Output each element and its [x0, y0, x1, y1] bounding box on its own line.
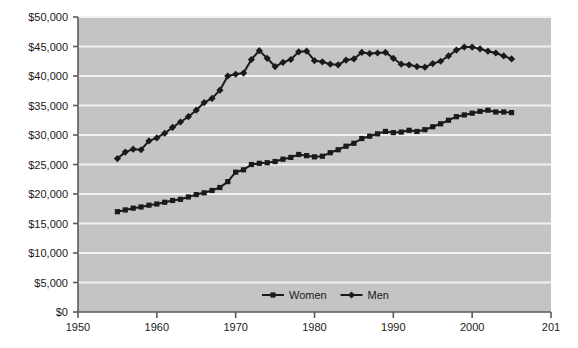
series-marker	[209, 188, 214, 193]
series-marker	[446, 118, 451, 123]
series-marker	[399, 129, 404, 134]
series-marker	[351, 141, 356, 146]
x-axis-tick-label: 201	[542, 321, 560, 333]
series-marker	[288, 155, 293, 160]
y-axis: $0$5,000$10,000$15,000$20,000$25,000$30,…	[28, 11, 78, 318]
legend-marker-square	[270, 292, 275, 297]
series-marker	[217, 185, 222, 190]
series-marker	[493, 109, 498, 114]
chart-canvas: $0$5,000$10,000$15,000$20,000$25,000$30,…	[0, 0, 578, 348]
series-marker	[138, 204, 143, 209]
series-marker	[249, 162, 254, 167]
series-marker	[178, 197, 183, 202]
series-marker	[233, 170, 238, 175]
series-marker	[383, 129, 388, 134]
x-axis-tick-label: 1980	[302, 321, 326, 333]
x-axis-tick-label: 1990	[381, 321, 405, 333]
y-axis-tick-label: $40,000	[28, 70, 68, 82]
series-marker	[343, 144, 348, 149]
y-axis-tick-label: $0	[56, 306, 68, 318]
x-axis-tick-label: 1950	[66, 321, 90, 333]
series-marker	[328, 150, 333, 155]
series-marker	[422, 127, 427, 132]
series-marker	[131, 206, 136, 211]
series-marker	[438, 121, 443, 126]
x-axis: 195019601970198019902000201	[66, 312, 560, 333]
series-marker	[407, 128, 412, 133]
legend-label: Women	[289, 289, 327, 301]
series-marker	[320, 154, 325, 159]
legend-label: Men	[368, 289, 389, 301]
series-marker	[304, 153, 309, 158]
y-axis-tick-label: $35,000	[28, 100, 68, 112]
series-marker	[154, 201, 159, 206]
series-marker	[359, 136, 364, 141]
series-marker	[391, 130, 396, 135]
series-marker	[312, 154, 317, 159]
y-axis-tick-label: $20,000	[28, 188, 68, 200]
series-marker	[241, 167, 246, 172]
series-marker	[280, 157, 285, 162]
series-marker	[170, 198, 175, 203]
series-marker	[146, 203, 151, 208]
series-marker	[265, 160, 270, 165]
series-marker	[414, 129, 419, 134]
series-marker	[477, 109, 482, 114]
x-axis-tick-label: 2000	[460, 321, 484, 333]
y-axis-tick-label: $10,000	[28, 247, 68, 259]
series-marker	[162, 200, 167, 205]
series-marker	[272, 159, 277, 164]
line-chart: $0$5,000$10,000$15,000$20,000$25,000$30,…	[0, 0, 578, 348]
y-axis-tick-label: $50,000	[28, 11, 68, 23]
series-marker	[225, 179, 230, 184]
series-marker	[257, 161, 262, 166]
y-axis-tick-label: $30,000	[28, 129, 68, 141]
series-marker	[462, 112, 467, 117]
series-marker	[430, 124, 435, 129]
series-marker	[454, 114, 459, 119]
series-marker	[115, 209, 120, 214]
series-marker	[367, 134, 372, 139]
series-marker	[202, 190, 207, 195]
series-marker	[509, 110, 514, 115]
series-marker	[501, 109, 506, 114]
series-marker	[485, 108, 490, 113]
series-marker	[123, 207, 128, 212]
series-marker	[375, 131, 380, 136]
x-axis-tick-label: 1960	[145, 321, 169, 333]
series-marker	[470, 111, 475, 116]
series-marker	[186, 194, 191, 199]
series-marker	[194, 192, 199, 197]
y-axis-tick-label: $25,000	[28, 159, 68, 171]
x-axis-tick-label: 1970	[223, 321, 247, 333]
y-axis-tick-label: $5,000	[34, 277, 68, 289]
series-marker	[296, 152, 301, 157]
series-marker	[336, 147, 341, 152]
y-axis-tick-label: $15,000	[28, 218, 68, 230]
y-axis-tick-label: $45,000	[28, 41, 68, 53]
